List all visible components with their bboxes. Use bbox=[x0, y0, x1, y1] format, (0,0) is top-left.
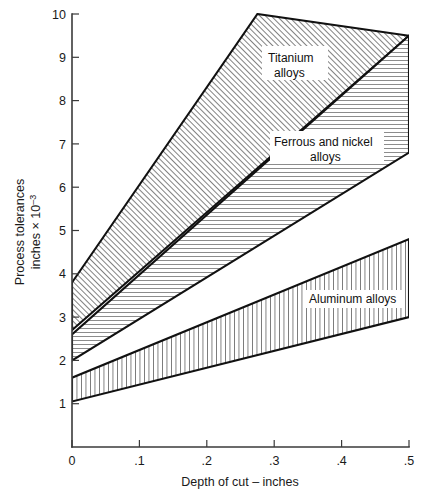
band-label-titanium-alloys: Titanium alloys bbox=[262, 46, 328, 80]
y-tick-label-3: 3 bbox=[59, 311, 66, 325]
y-axis-title: Process tolerances inches × 10–3 bbox=[13, 179, 43, 285]
y-tick-label-7: 7 bbox=[59, 138, 66, 152]
y-axis-title-exponent: –3 bbox=[28, 195, 38, 205]
y-tick-label-4: 4 bbox=[59, 267, 66, 281]
y-axis-title-line1: Process tolerances bbox=[13, 179, 27, 285]
band-label-ferrous-line2: alloys bbox=[310, 150, 341, 164]
x-tick-label-0: 0 bbox=[69, 454, 76, 468]
band-label-titanium-line1: Titanium bbox=[268, 51, 314, 65]
y-tick-label-9: 9 bbox=[59, 51, 66, 65]
x-tick-label-5: .5 bbox=[404, 454, 414, 468]
band-label-titanium-line2: alloys bbox=[274, 66, 305, 80]
x-axis-ticks bbox=[72, 440, 409, 447]
x-tick-label-4: .4 bbox=[336, 454, 346, 468]
x-tick-label-2: .2 bbox=[202, 454, 212, 468]
y-tick-label-5: 5 bbox=[59, 224, 66, 238]
y-axis-title-line2-text: inches × 10 bbox=[29, 205, 43, 269]
x-axis-tick-labels: 0 .1 .2 .3 .4 .5 bbox=[69, 454, 415, 468]
x-axis-title: Depth of cut – inches bbox=[181, 475, 298, 489]
y-tick-label-8: 8 bbox=[59, 94, 66, 108]
band-label-ferrous-and-nickel-alloys: Ferrous and nickel alloys bbox=[270, 131, 384, 164]
y-tick-label-6: 6 bbox=[59, 181, 66, 195]
x-tick-label-3: .3 bbox=[269, 454, 279, 468]
x-tick-label-1: .1 bbox=[134, 454, 144, 468]
band-group bbox=[72, 14, 409, 402]
y-tick-label-1: 1 bbox=[59, 397, 66, 411]
y-tick-label-10: 10 bbox=[52, 8, 66, 22]
y-tick-label-2: 2 bbox=[59, 354, 66, 368]
band-label-aluminum-line1: Aluminum alloys bbox=[309, 292, 396, 306]
process-tolerance-chart: 10 9 8 7 6 5 4 3 2 1 0 bbox=[0, 0, 423, 491]
band-label-aluminum-alloys: Aluminum alloys bbox=[305, 290, 402, 308]
band-label-ferrous-line1: Ferrous and nickel bbox=[274, 135, 373, 149]
y-axis-tick-labels: 10 9 8 7 6 5 4 3 2 1 bbox=[52, 8, 66, 412]
chart-figure: 10 9 8 7 6 5 4 3 2 1 0 bbox=[0, 0, 423, 491]
y-axis-title-line2: inches × 10–3 bbox=[28, 195, 43, 269]
